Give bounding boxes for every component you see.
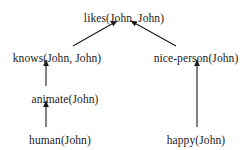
- node-happy: happy(John): [167, 134, 226, 147]
- node-likes: likes(John, John): [84, 12, 164, 25]
- node-nice_person: nice-person(John): [154, 52, 239, 65]
- node-human: human(John): [29, 134, 91, 147]
- node-animate: animate(John): [31, 93, 98, 106]
- inference-diagram: likes(John, John)knows(John, John)nice-p…: [0, 0, 248, 150]
- node-knows: knows(John, John): [13, 52, 102, 65]
- edges-group: [46, 21, 197, 127]
